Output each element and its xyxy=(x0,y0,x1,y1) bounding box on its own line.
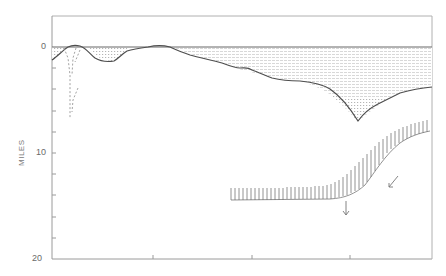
dashed-conduit xyxy=(64,48,80,118)
down-arrow-icon xyxy=(343,201,349,215)
y-tick-label-20: 20 xyxy=(22,253,42,263)
y-axis-ticks xyxy=(52,68,56,238)
hatched-boundary xyxy=(231,120,430,200)
cross-section-figure: 0 10 20 MILES xyxy=(0,0,446,276)
diagram-canvas xyxy=(0,0,446,276)
diagonal-arrow-icon xyxy=(389,176,398,187)
y-tick-label-10: 10 xyxy=(26,147,46,157)
x-axis-ticks xyxy=(153,255,350,259)
y-axis-title: MILES xyxy=(17,139,26,166)
y-tick-label-0: 0 xyxy=(26,41,46,51)
water-shading xyxy=(170,47,432,122)
